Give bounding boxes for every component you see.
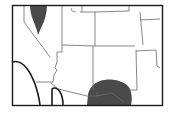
map-background — [0, 0, 171, 113]
range-map — [0, 0, 171, 113]
